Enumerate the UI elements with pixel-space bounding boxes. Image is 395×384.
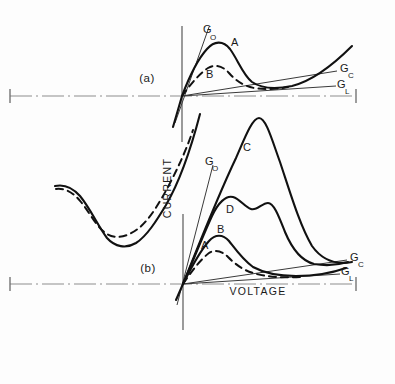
panel-b-group: (b) C D B A G O G C G L [140,118,364,305]
panel-a-g-o-sublabel: O [210,33,216,42]
panel-b-label: (b) [140,262,156,274]
panel-a-g-l-line [182,86,336,96]
panel-b-curve-b-label: B [217,223,225,235]
panel-b-g-c-sublabel: C [358,260,364,269]
panel-a-label: (a) [139,72,155,84]
panel-a-g-c-sublabel: C [348,71,354,80]
panel-b-curve-a [183,251,302,284]
panel-b-g-o-sublabel: O [212,164,218,173]
panel-b-curve-a-label: A [201,239,209,251]
panel-a-curve-b-label: B [206,68,214,80]
panel-a-group: (a) A B G O G C G L [139,23,354,127]
iv-characteristics-figure: (a) A B G O G C G L [0,0,395,384]
x-axis-title: VOLTAGE [229,285,286,297]
panel-a-curve-a-label: A [231,36,239,48]
panel-b-curve-d-label: D [226,203,234,215]
reverse-branch-group [55,114,200,246]
panel-b-curve-c-label: C [243,141,251,153]
panel-a-g-l-sublabel: L [345,87,350,96]
panel-a-g-o-line [175,27,209,123]
figure-root: (a) A B G O G C G L [0,0,395,384]
y-axis-title: CURRENT [161,158,173,218]
reverse-branch-solid-curve [55,114,200,246]
panel-b-g-l-sublabel: L [349,274,354,283]
